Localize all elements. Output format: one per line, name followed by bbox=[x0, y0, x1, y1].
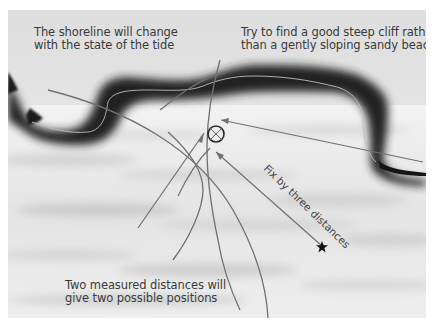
shoreline-caption: The shoreline will change with the state… bbox=[34, 26, 178, 52]
diagram-canvas bbox=[8, 10, 426, 318]
caption-line: than a gently sloping sandy beach bbox=[241, 39, 426, 52]
two-distances-caption: Two measured distances will give two pos… bbox=[65, 279, 226, 305]
caption-line: with the state of the tide bbox=[34, 39, 178, 52]
cliff-caption: Try to find a good steep cliff rather th… bbox=[241, 26, 426, 52]
distance-fix-diagram: The shoreline will change with the state… bbox=[8, 10, 426, 318]
caption-line: give two possible positions bbox=[65, 292, 226, 305]
